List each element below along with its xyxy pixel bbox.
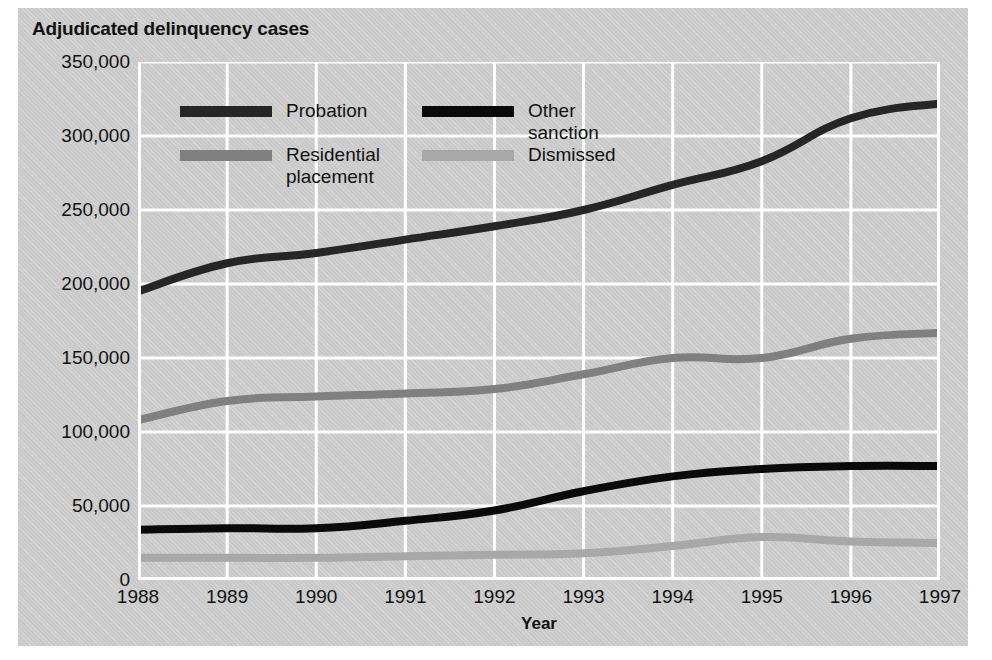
y-axis-tick-label: 100,000: [10, 421, 130, 443]
page-title: Adjudicated delinquency cases: [32, 18, 309, 40]
x-axis-title: Year: [138, 614, 940, 634]
legend-swatch-icon: [180, 150, 272, 161]
legend-swatch-icon: [422, 150, 514, 161]
legend-item-label: Dismissed: [528, 144, 616, 166]
y-axis-tick-labels: 050,000100,000150,000200,000250,000300,0…: [8, 62, 130, 580]
x-axis-tick-label: 1997: [919, 586, 961, 608]
y-axis-tick-label: 300,000: [10, 125, 130, 147]
legend-swatch-icon: [180, 106, 272, 117]
y-axis-tick-label: 250,000: [10, 199, 130, 221]
legend-item-label: Residential placement: [286, 144, 380, 188]
x-axis-tick-label: 1989: [206, 586, 248, 608]
y-axis-tick-label: 150,000: [10, 347, 130, 369]
x-axis-tick-label: 1990: [295, 586, 337, 608]
x-axis-tick-label: 1996: [830, 586, 872, 608]
legend-item-label: Other sanction: [528, 100, 620, 144]
x-axis-tick-labels: 1988198919901991199219931994199519961997: [138, 586, 940, 612]
x-axis-tick-label: 1991: [384, 586, 426, 608]
legend-item[interactable]: Dismissed: [422, 144, 616, 166]
y-axis-tick-label: 350,000: [10, 51, 130, 73]
y-axis-tick-label: 50,000: [10, 495, 130, 517]
x-axis-tick-label: 1995: [741, 586, 783, 608]
legend-item-label: Probation: [286, 100, 367, 122]
y-axis-tick-label: 0: [10, 569, 130, 591]
series-line-residential-placement: [138, 333, 940, 420]
series-line-other-sanction: [138, 466, 940, 530]
y-axis-tick-label: 200,000: [10, 273, 130, 295]
x-axis-tick-label: 1994: [652, 586, 694, 608]
x-axis-tick-label: 1992: [473, 586, 515, 608]
legend-item[interactable]: Other sanction: [422, 100, 620, 144]
legend-swatch-icon: [422, 106, 514, 117]
legend-item[interactable]: Probation: [180, 100, 367, 122]
x-axis-tick-label: 1988: [117, 586, 159, 608]
x-axis-tick-label: 1993: [562, 586, 604, 608]
chart-figure: Adjudicated delinquency cases 050,000100…: [0, 0, 992, 660]
series-line-dismissed: [138, 537, 940, 558]
legend-item[interactable]: Residential placement: [180, 144, 380, 188]
